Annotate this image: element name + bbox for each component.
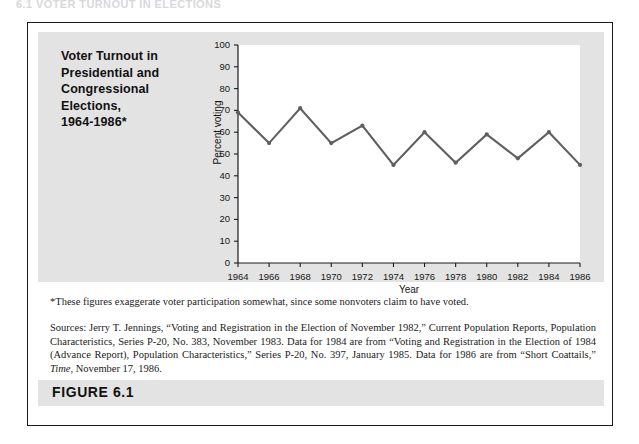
- data-point-marker: [516, 156, 520, 160]
- y-axis-tick-label: 90: [204, 61, 230, 72]
- y-axis-tick-label: 20: [204, 213, 230, 224]
- x-axis-tick-label: 1980: [470, 271, 504, 282]
- x-axis-title: Year: [238, 284, 580, 295]
- sources-suffix: , November 17, 1986.: [70, 363, 162, 374]
- x-axis-tick-label: 1974: [376, 271, 410, 282]
- x-axis-tick-label: 1986: [563, 271, 597, 282]
- y-axis-tick-label: 0: [204, 257, 230, 268]
- data-point-marker: [391, 163, 395, 167]
- chart-panel: Voter Turnout in Presidential and Congre…: [38, 32, 604, 282]
- y-axis-tick-label: 30: [204, 192, 230, 203]
- sources-prefix: Sources: Jerry T. Jennings, “Voting and …: [50, 322, 596, 360]
- y-axis-ticks: [234, 45, 238, 263]
- figure-sources: Sources: Jerry T. Jennings, “Voting and …: [50, 321, 596, 375]
- y-axis-tick-label: 10: [204, 235, 230, 246]
- line-chart-svg: [200, 41, 592, 273]
- y-axis-tick-label: 100: [204, 39, 230, 50]
- running-header: 6.1 VOTER TURNOUT IN ELECTIONS: [16, 0, 316, 9]
- x-axis-tick-label: 1968: [283, 271, 317, 282]
- data-point-marker: [298, 106, 302, 110]
- chart-title-line-5: 1964-1986*: [61, 114, 221, 131]
- data-point-marker: [547, 130, 551, 134]
- x-axis-tick-label: 1966: [252, 271, 286, 282]
- data-point-markers: [236, 106, 582, 167]
- chart-title-line-3: Congressional: [61, 81, 221, 98]
- x-axis-tick-label: 1984: [532, 271, 566, 282]
- data-point-marker: [267, 141, 271, 145]
- x-axis-tick-label: 1978: [439, 271, 473, 282]
- chart-title-line-1: Voter Turnout in: [61, 48, 221, 65]
- figure-footnote: *These figures exaggerate voter particip…: [50, 295, 590, 308]
- x-axis-tick-label: 1970: [314, 271, 348, 282]
- figure-caption-band: FIGURE 6.1: [38, 380, 604, 406]
- data-point-marker: [422, 130, 426, 134]
- sources-italic-title: Time: [50, 363, 70, 374]
- chart-title: Voter Turnout in Presidential and Congre…: [61, 48, 221, 131]
- data-point-marker: [454, 161, 458, 165]
- chart-title-line-2: Presidential and: [61, 65, 221, 82]
- data-point-marker: [578, 163, 582, 167]
- figure-caption-label: FIGURE 6.1: [52, 384, 134, 400]
- x-axis-ticks: [238, 263, 580, 267]
- chart-title-line-4: Elections,: [61, 98, 221, 115]
- data-point-marker: [329, 141, 333, 145]
- plot-area: 0102030405060708090100 19641966196819701…: [200, 41, 592, 273]
- turnout-line: [238, 108, 580, 165]
- y-axis-title: Percent voting: [212, 78, 223, 188]
- x-axis-tick-label: 1964: [221, 271, 255, 282]
- x-axis-tick-label: 1976: [408, 271, 442, 282]
- figure-container: Voter Turnout in Presidential and Congre…: [27, 22, 613, 426]
- data-point-marker: [360, 124, 364, 128]
- axis-lines: [238, 45, 580, 263]
- x-axis-tick-label: 1972: [345, 271, 379, 282]
- x-axis-tick-label: 1982: [501, 271, 535, 282]
- data-point-marker: [236, 110, 240, 114]
- data-point-marker: [485, 132, 489, 136]
